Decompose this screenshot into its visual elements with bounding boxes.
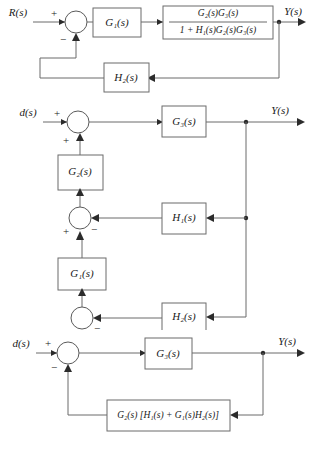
block-g1-label: G₁(s) xyxy=(105,16,129,29)
summing-junction-2-top xyxy=(67,111,89,133)
output-label-2: Y(s) xyxy=(271,104,289,117)
arrowhead-feedback-input-3 xyxy=(230,411,238,419)
arrowhead-sum-feedback-3 xyxy=(64,364,72,372)
sum-sign-top-3: + xyxy=(45,337,51,349)
sum-sign-bottom-3: − xyxy=(51,361,57,373)
arrowhead-output-3 xyxy=(297,349,305,357)
block-feedback-label-3: G₂(s) [H₁(s) + G₁(s)H₂(s)] xyxy=(117,410,219,421)
input-label-2: d(s) xyxy=(19,106,36,119)
diagram-3: G₃(s) G₂(s) [H₁(s) + G₁(s)H₂(s)] d(s) Y(… xyxy=(0,330,321,445)
block-g1-label-2: G₁(s) xyxy=(70,267,94,280)
arrowhead-output-2 xyxy=(297,118,305,126)
sumtop-sign-left-2: + xyxy=(54,107,60,119)
arrowhead-sumtop-input-2 xyxy=(61,119,67,125)
arrowhead-h1-input-2 xyxy=(206,214,214,222)
sum1-sign-bottom: − xyxy=(60,33,66,45)
input-label-1: R(s) xyxy=(8,6,28,19)
output-label-3: Y(s) xyxy=(278,335,296,348)
arrowhead-sum1-input xyxy=(59,19,65,25)
block-g3-label-2: G₃(s) xyxy=(172,115,196,128)
output-label-1: Y(s) xyxy=(284,5,302,18)
arrowhead-output-1 xyxy=(298,18,306,26)
block-g2-label-2: G₂(s) xyxy=(68,165,92,178)
summid-sign-bottom-2: + xyxy=(63,225,69,237)
block-h2-label-2: H₂(s) xyxy=(171,310,196,323)
arrowhead-sum-input-3 xyxy=(51,350,57,356)
arrowhead-summid-bottom-2 xyxy=(76,231,84,240)
summing-junction-3 xyxy=(57,342,79,364)
summing-junction-2-bottom xyxy=(71,307,93,329)
diagram-1: G₁(s) G₂(s)G₃(s) 1 + H₁(s)G₂(s)G₃(s) H₂(… xyxy=(0,0,321,100)
closed-loop-numerator: G₂(s)G₃(s) xyxy=(198,8,238,19)
arrowhead-summid-right-2 xyxy=(91,214,99,222)
block-h1-label-2: H₁(s) xyxy=(171,211,196,224)
arrowhead-h2-input-2 xyxy=(206,313,214,321)
summing-junction-2-mid xyxy=(69,207,91,229)
block-g3-label-3: G₃(s) xyxy=(156,347,180,360)
figure-canvas: G₁(s) G₂(s)G₃(s) 1 + H₁(s)G₂(s)G₃(s) H₂(… xyxy=(0,0,321,449)
block-h2-label-1: H₂(s) xyxy=(113,71,138,84)
summid-sign-right-2: − xyxy=(91,223,97,235)
sum1-sign-top: + xyxy=(51,7,57,19)
closed-loop-denominator: 1 + H₁(s)G₂(s)G₃(s) xyxy=(180,25,256,36)
summing-junction-1 xyxy=(65,11,87,33)
arrowhead-cl-input xyxy=(157,19,163,25)
arrowhead-sumtop-bottom-2 xyxy=(76,133,84,141)
sumtop-sign-bottom-2: + xyxy=(63,134,69,146)
input-label-3: d(s) xyxy=(12,337,29,350)
sumbot-sign-right-2: − xyxy=(94,322,100,330)
arrowhead-sum1-feedback xyxy=(72,33,80,41)
diagram-2: G₃(s) G₂(s) H₁(s) G₁(s) H₂(s) xyxy=(0,100,321,330)
